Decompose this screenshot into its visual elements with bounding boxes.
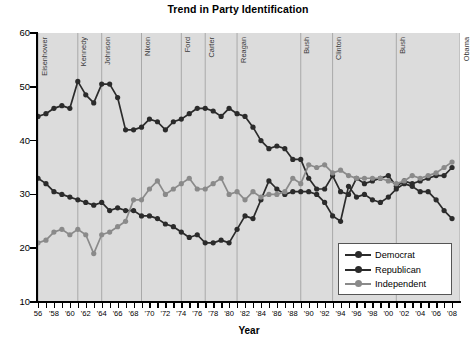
- data-point-democrat: [386, 173, 391, 178]
- president-label: Bush: [302, 37, 311, 54]
- legend-label-republican: Republican: [375, 264, 421, 276]
- y-tick-label: 60: [0, 27, 30, 38]
- x-tick: [70, 303, 71, 308]
- data-point-republican: [179, 229, 184, 234]
- page-title: Trend in Party Identification: [0, 3, 476, 15]
- data-point-independent: [195, 186, 200, 191]
- x-tick: [253, 303, 254, 308]
- x-tick: [301, 303, 302, 308]
- data-point-republican: [187, 235, 192, 240]
- data-point-republican: [266, 178, 271, 183]
- data-point-independent: [147, 186, 152, 191]
- y-tick: [30, 194, 37, 196]
- data-point-democrat: [155, 119, 160, 124]
- data-point-republican: [354, 194, 359, 199]
- data-point-independent: [91, 251, 96, 256]
- y-tick-label: 20: [0, 242, 30, 253]
- data-point-democrat: [179, 116, 184, 121]
- legend-item-independent: Independent: [345, 277, 445, 292]
- data-point-independent: [99, 232, 104, 237]
- data-point-independent: [139, 197, 144, 202]
- data-point-democrat: [115, 95, 120, 100]
- data-point-democrat: [449, 165, 454, 170]
- x-tick: [126, 303, 127, 308]
- data-point-democrat: [203, 106, 208, 111]
- data-point-independent: [179, 181, 184, 186]
- data-point-independent: [402, 178, 407, 183]
- data-point-independent: [51, 229, 56, 234]
- data-point-republican: [338, 219, 343, 224]
- data-point-democrat: [314, 186, 319, 191]
- data-point-republican: [250, 216, 255, 221]
- data-point-democrat: [274, 143, 279, 148]
- x-tick: [269, 303, 270, 308]
- data-point-republican: [203, 240, 208, 245]
- data-point-independent: [187, 176, 192, 181]
- data-point-independent: [370, 176, 375, 181]
- x-tick: [364, 303, 365, 308]
- x-tick: [110, 303, 111, 308]
- x-tick: [173, 303, 174, 308]
- data-point-independent: [75, 227, 80, 232]
- data-point-democrat: [242, 114, 247, 119]
- x-tick: [157, 303, 158, 308]
- data-point-independent: [131, 197, 136, 202]
- legend-marker-republican: [345, 264, 371, 276]
- data-point-republican: [441, 208, 446, 213]
- x-tick: [436, 303, 437, 308]
- x-axis-title: Year: [38, 325, 460, 336]
- data-point-independent: [258, 194, 263, 199]
- data-point-republican: [91, 203, 96, 208]
- x-tick: [86, 303, 87, 308]
- data-point-republican: [43, 181, 48, 186]
- x-tick: [134, 303, 135, 308]
- data-point-democrat: [83, 92, 88, 97]
- x-tick: [149, 303, 150, 308]
- data-point-independent: [123, 219, 128, 224]
- data-point-republican: [410, 184, 415, 189]
- data-point-democrat: [107, 82, 112, 87]
- x-tick: [396, 303, 397, 308]
- data-point-democrat: [123, 127, 128, 132]
- x-tick: [412, 303, 413, 308]
- x-tick: [356, 303, 357, 308]
- data-point-democrat: [441, 173, 446, 178]
- y-tick-label: 30: [0, 188, 30, 199]
- x-tick: [46, 303, 47, 308]
- data-point-republican: [426, 189, 431, 194]
- data-point-republican: [155, 216, 160, 221]
- y-tick-label: 50: [0, 81, 30, 92]
- president-label: Nixon: [143, 37, 152, 56]
- data-point-independent: [290, 176, 295, 181]
- x-tick: [213, 303, 214, 308]
- president-label: Obama: [462, 37, 471, 61]
- data-point-independent: [306, 162, 311, 167]
- x-tick: [261, 303, 262, 308]
- data-point-republican: [370, 197, 375, 202]
- legend-marker-democrat: [345, 249, 371, 261]
- data-point-democrat: [171, 119, 176, 124]
- data-point-democrat: [99, 82, 104, 87]
- data-point-democrat: [131, 127, 136, 132]
- data-point-independent: [211, 181, 216, 186]
- data-point-republican: [306, 189, 311, 194]
- data-point-democrat: [67, 106, 72, 111]
- data-point-democrat: [75, 79, 80, 84]
- data-point-independent: [410, 173, 415, 178]
- data-point-republican: [386, 194, 391, 199]
- data-point-republican: [211, 240, 216, 245]
- legend-label-independent: Independent: [375, 278, 426, 290]
- data-point-democrat: [226, 106, 231, 111]
- data-point-independent: [219, 176, 224, 181]
- data-point-republican: [234, 227, 239, 232]
- data-point-independent: [330, 170, 335, 175]
- x-tick: [102, 303, 103, 308]
- data-point-independent: [338, 168, 343, 173]
- data-point-republican: [115, 205, 120, 210]
- data-point-independent: [171, 186, 176, 191]
- data-point-republican: [434, 197, 439, 202]
- data-point-independent: [155, 178, 160, 183]
- data-point-independent: [394, 181, 399, 186]
- data-point-democrat: [43, 111, 48, 116]
- x-tick: [38, 303, 39, 308]
